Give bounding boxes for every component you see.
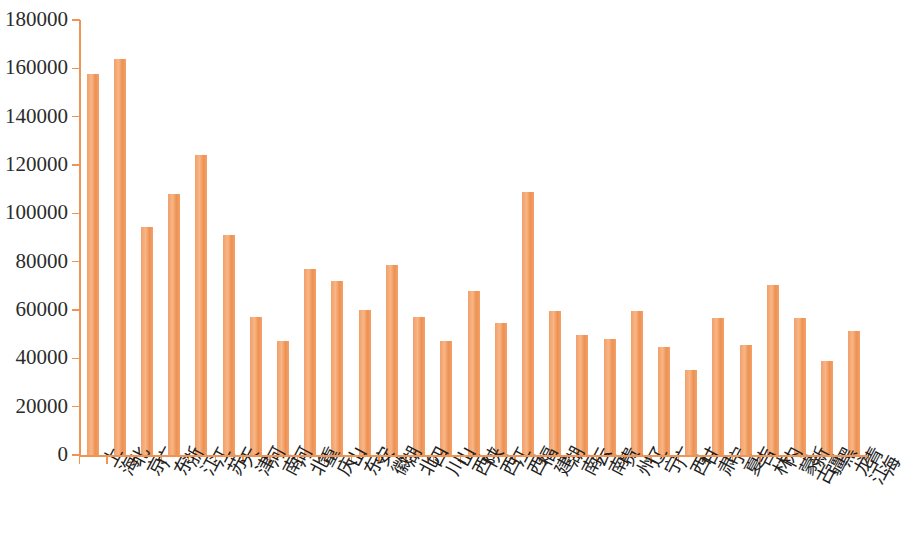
y-axis-tick-label: 180000 <box>5 9 68 30</box>
bar <box>304 269 316 455</box>
y-axis-tick-label: 0 <box>58 444 69 465</box>
y-axis-tick-label-wrap: 160000 <box>0 57 68 79</box>
bar <box>277 341 289 455</box>
bar <box>195 155 207 455</box>
y-axis-tick-label-wrap: 0 <box>0 444 68 466</box>
bar <box>794 318 806 455</box>
y-axis-tick-label: 160000 <box>5 57 68 78</box>
bar <box>604 339 616 455</box>
bar <box>821 361 833 455</box>
bar <box>549 311 561 455</box>
bar <box>141 227 153 455</box>
bar <box>386 265 398 455</box>
bar <box>712 318 724 455</box>
bar <box>740 345 752 455</box>
bar <box>413 317 425 455</box>
y-axis-tick-label: 80000 <box>16 251 69 272</box>
bar <box>250 317 262 455</box>
y-axis-tick-label-wrap: 20000 <box>0 396 68 418</box>
y-axis-line <box>79 20 81 456</box>
y-axis-tick-label-wrap: 180000 <box>0 9 68 31</box>
bar <box>576 335 588 455</box>
y-axis-tick-label-wrap: 100000 <box>0 202 68 224</box>
bar <box>685 370 697 455</box>
bar <box>168 194 180 455</box>
x-axis-line <box>79 455 868 457</box>
y-axis-tick-label-wrap: 140000 <box>0 106 68 128</box>
bar <box>468 291 480 455</box>
y-axis-tick-label-wrap: 80000 <box>0 251 68 273</box>
y-axis-tick-label-wrap: 40000 <box>0 347 68 369</box>
bar <box>767 285 779 455</box>
y-axis-tick-label: 120000 <box>5 154 68 175</box>
y-axis-tick-label: 40000 <box>16 347 69 368</box>
bar <box>87 74 99 455</box>
y-axis-tick-label: 60000 <box>16 299 69 320</box>
bar <box>114 59 126 455</box>
y-axis-tick-label: 140000 <box>5 106 68 127</box>
bar <box>848 331 860 455</box>
bar <box>359 310 371 455</box>
bar <box>658 347 670 455</box>
y-axis-tick-label: 100000 <box>5 202 68 223</box>
y-axis-tick-label-wrap: 60000 <box>0 299 68 321</box>
bar <box>440 341 452 455</box>
y-axis-tick-label: 20000 <box>16 396 69 417</box>
bar <box>331 281 343 455</box>
x-axis-tick <box>79 456 80 464</box>
bar <box>522 192 534 455</box>
bar <box>495 323 507 455</box>
bar <box>631 311 643 455</box>
y-axis-tick-label-wrap: 120000 <box>0 154 68 176</box>
bar <box>223 235 235 455</box>
